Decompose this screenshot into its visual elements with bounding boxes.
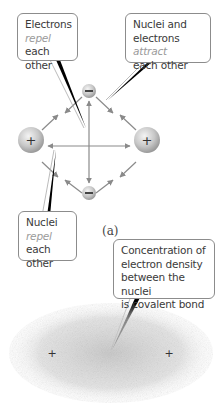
callout-text: each other xyxy=(133,59,203,73)
svg-text:+: + xyxy=(142,133,153,148)
svg-text:+: + xyxy=(47,347,56,360)
electron-cloud: + + xyxy=(9,303,213,403)
callout-text: Electrons xyxy=(25,18,70,32)
nucleus-right: + xyxy=(134,127,160,153)
callout-text: electrons attract xyxy=(133,32,203,59)
emphasis-text: repel xyxy=(25,32,51,44)
callout-nuclei-repel: Nuclei repel each other xyxy=(18,211,77,261)
callout-text: electron density xyxy=(121,258,207,272)
callout-covalent-bond: Concentration of electron density betwee… xyxy=(113,239,215,299)
callout-attract: Nuclei and electrons attract each other xyxy=(125,13,211,63)
nucleus-left: + xyxy=(18,127,44,153)
callout-text: Nuclei and xyxy=(133,18,203,32)
panel-label: (a) xyxy=(102,224,119,238)
emphasis-text: attract xyxy=(133,45,167,57)
callout-text: between the nuclei xyxy=(121,271,207,298)
electron-bottom xyxy=(82,186,96,200)
svg-text:+: + xyxy=(164,347,173,360)
callout-text: repel each xyxy=(26,230,69,257)
callout-text: is covalent bond xyxy=(121,298,207,312)
callout-text: other xyxy=(25,59,70,73)
callout-text: Nuclei xyxy=(26,216,69,230)
callout-electrons-repel: Electrons repel each other xyxy=(17,13,78,61)
callout-text: each xyxy=(26,243,51,255)
svg-text:+: + xyxy=(26,133,37,148)
callout-text: other xyxy=(26,257,69,271)
callout-text: Concentration of xyxy=(121,244,207,258)
electron-top xyxy=(82,84,96,98)
callout-text: each xyxy=(25,45,50,57)
emphasis-text: repel xyxy=(26,230,52,242)
callout-text: repel each xyxy=(25,32,70,59)
callout-text: electrons xyxy=(133,32,180,44)
force-arrows xyxy=(42,97,136,193)
